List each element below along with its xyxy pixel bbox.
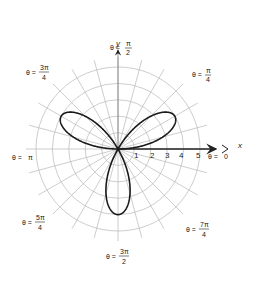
svg-text:0: 0 — [224, 153, 228, 160]
grid-spoke — [72, 149, 118, 229]
svg-text:θ =: θ = — [22, 219, 32, 226]
grid-spoke — [38, 103, 118, 149]
radial-tick-5: 5 — [196, 151, 201, 160]
svg-text:θ =: θ = — [26, 69, 36, 76]
grid-spoke — [72, 69, 118, 149]
angle-label-3pi-over-4: θ = 3π 4 — [26, 64, 49, 81]
x-axis-label: x — [237, 141, 243, 150]
angle-label-pi-over-2: θ = π 2 — [110, 40, 132, 56]
radial-tick-2: 2 — [150, 151, 155, 160]
x-axis-arrow-icon — [222, 145, 228, 153]
svg-text:θ =: θ = — [106, 253, 116, 260]
grid-spoke — [29, 149, 118, 173]
svg-text:π: π — [206, 67, 211, 74]
angle-label-pi-over-4: θ = π 4 — [192, 67, 211, 83]
radial-tick-1: 1 — [134, 151, 139, 160]
radial-tick-4: 4 — [179, 151, 184, 160]
polar-graph-figure: x y 1 2 3 4 5 θ = 0 θ = π θ = π 2 θ = π … — [0, 0, 256, 283]
svg-text:θ =: θ = — [110, 44, 120, 51]
svg-text:θ =: θ = — [192, 71, 202, 78]
angle-label-pi: θ = π — [12, 154, 33, 161]
radial-tick-3: 3 — [165, 151, 170, 160]
svg-text:4: 4 — [206, 76, 210, 83]
svg-text:2: 2 — [122, 258, 126, 265]
angle-label-3pi-over-2: θ = 3π 2 — [106, 248, 129, 265]
grid-spoke — [94, 60, 118, 149]
svg-text:θ =: θ = — [186, 226, 196, 233]
svg-text:4: 4 — [202, 231, 206, 238]
grid-spoke — [118, 103, 198, 149]
svg-text:5π: 5π — [36, 214, 45, 221]
grid-spoke — [118, 149, 164, 229]
angle-label-5pi-over-4: θ = 5π 4 — [22, 214, 45, 231]
grid-spoke — [118, 149, 207, 173]
svg-text:θ =: θ = — [12, 154, 22, 161]
svg-text:3π: 3π — [40, 64, 49, 71]
svg-text:4: 4 — [42, 74, 46, 81]
grid-spoke — [118, 60, 142, 149]
svg-text:π: π — [28, 154, 33, 161]
svg-text:π: π — [126, 40, 131, 47]
svg-text:θ =: θ = — [208, 153, 218, 160]
svg-text:4: 4 — [38, 224, 42, 231]
grid-spoke — [118, 69, 164, 149]
svg-text:3π: 3π — [120, 248, 129, 255]
angle-label-0: θ = 0 — [208, 153, 228, 160]
angle-label-7pi-over-4: θ = 7π 4 — [186, 221, 209, 238]
svg-text:7π: 7π — [200, 221, 209, 228]
svg-text:2: 2 — [126, 49, 130, 56]
